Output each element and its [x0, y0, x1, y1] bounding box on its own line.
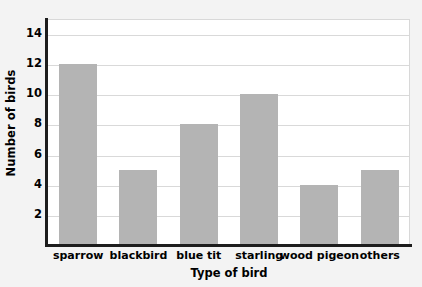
y-axis-title: Number of birds	[0, 0, 22, 245]
x-tick-label-wood-pigeon: wood pigeon	[280, 249, 359, 263]
x-axis-tick-labels: sparrowblackbirdblue titstarlingwood pig…	[48, 249, 410, 265]
bar-blue-tit	[180, 124, 218, 245]
bar-sparrow	[59, 64, 97, 245]
x-tick-label-blue-tit: blue tit	[176, 249, 221, 263]
y-axis-line	[45, 18, 48, 247]
y-axis-tick-labels: 2468101214	[20, 19, 44, 245]
x-tick-label-starling: starling	[235, 249, 283, 263]
y-tick-label: 4	[34, 179, 42, 191]
bar-blackbird	[119, 170, 157, 245]
x-axis-title: Type of bird	[48, 266, 410, 280]
bar-wood-pigeon	[300, 185, 338, 245]
y-tick-label: 8	[34, 119, 42, 131]
bars-layer	[48, 19, 410, 245]
bar-chart: Number of birds 2468101214 sparrowblackb…	[0, 0, 422, 287]
y-tick-label: 2	[34, 209, 42, 221]
y-tick-label: 12	[26, 58, 42, 70]
x-tick-label-others: others	[360, 249, 400, 263]
y-tick-label: 6	[34, 149, 42, 161]
x-tick-label-blackbird: blackbird	[110, 249, 168, 263]
y-axis-title-text: Number of birds	[4, 69, 18, 176]
bar-starling	[240, 94, 278, 245]
x-tick-label-sparrow: sparrow	[53, 249, 103, 263]
y-tick-label: 14	[26, 28, 42, 40]
x-axis-line	[45, 244, 412, 247]
y-tick-label: 10	[26, 89, 42, 101]
bar-others	[361, 170, 399, 245]
